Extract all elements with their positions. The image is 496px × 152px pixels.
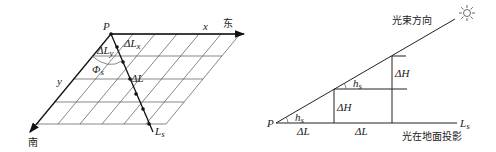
delta-l-label-2: ΔL <box>354 125 368 137</box>
delta-h-label-2: ΔH <box>394 67 410 79</box>
delta-lx-label: ΔLx <box>123 37 141 51</box>
angle-h-label-1: hs <box>295 111 305 125</box>
angle-phi-label: Φs <box>92 63 104 77</box>
y-axis-label: y <box>56 75 62 87</box>
south-label: 南 <box>28 136 38 148</box>
angle-arc-1 <box>286 117 288 123</box>
delta-l-label: ΔL <box>130 72 144 84</box>
origin-label: P <box>266 117 274 129</box>
beam-direction-label: 光束方向 <box>392 14 432 26</box>
beam-elevation-diagram: 光束方向 光在地面投影 P Ls hs hs ΔH ΔH ΔL ΔL <box>266 5 475 142</box>
delta-ly-label: ΔLy <box>96 44 114 58</box>
diagram-canvas: P x 东 南 y Ls ΔLx ΔLy Φs ΔL <box>0 0 496 152</box>
sun-icon <box>459 5 475 21</box>
x-axis-label: x <box>202 20 208 32</box>
origin-label: P <box>102 20 110 32</box>
east-label: 东 <box>223 17 233 29</box>
angle-h-label-2: hs <box>353 77 363 91</box>
ground-projection-label: 光在地面投影 <box>402 130 462 142</box>
delta-l-label-1: ΔL <box>296 125 310 137</box>
line-label: Ls <box>459 117 470 131</box>
angle-arc-2 <box>344 83 346 89</box>
ground-grid-diagram: P x 东 南 y Ls ΔLx ΔLy Φs ΔL <box>28 17 244 148</box>
delta-h-label-1: ΔH <box>336 101 352 113</box>
beam-direction-line <box>276 19 455 123</box>
line-label: Ls <box>154 125 165 139</box>
